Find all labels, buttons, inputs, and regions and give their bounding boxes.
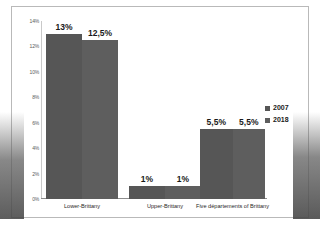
bar-value-label: 1%	[141, 175, 153, 184]
bar-value-label: 13%	[55, 23, 72, 32]
bar-value-label: 12,5%	[88, 29, 112, 38]
x-axis-category-label: Lower-Brittany	[64, 202, 100, 210]
legend-label: 2007	[273, 104, 289, 112]
bar-pair: 1%1%	[129, 21, 201, 199]
bar-value-label: 5,5%	[207, 118, 226, 127]
chart-legend: 20072018	[265, 102, 309, 126]
y-axis-tick-label: 12%	[13, 43, 39, 49]
x-axis-category-label: Upper-Brittany	[147, 202, 183, 210]
legend-item[interactable]: 2007	[265, 102, 309, 114]
page-margin-bottom	[0, 221, 320, 235]
legend-label: 2018	[273, 116, 289, 124]
bar-fill	[200, 129, 233, 199]
y-axis-tick-label: 14%	[13, 18, 39, 24]
chart-screenshot: 14%12%10%8%6%4%2%0% 13%12,5%1%1%5,5%5,5%…	[0, 0, 320, 235]
bar-group: 5,5%5,5%	[200, 21, 265, 199]
bar-fill	[82, 40, 118, 199]
bar-groups: 13%12,5%1%1%5,5%5,5%	[42, 21, 267, 199]
legend-swatch-icon	[265, 106, 270, 111]
y-axis-tick-label: 10%	[13, 69, 39, 75]
x-axis-labels: Lower-BrittanyUpper-BrittanyFive départe…	[42, 202, 267, 216]
bar-pair: 5,5%5,5%	[200, 21, 265, 199]
bar-fill	[129, 186, 165, 199]
y-axis-tick-label: 0%	[13, 196, 39, 202]
bar-fill	[46, 34, 82, 199]
y-axis-tick-label: 6%	[13, 120, 39, 126]
bar-group: 1%1%	[129, 21, 201, 199]
bar-fill	[233, 129, 266, 199]
bar-value-label: 5,5%	[239, 118, 258, 127]
bar-group: 13%12,5%	[46, 21, 118, 199]
bar-pair: 13%12,5%	[46, 21, 118, 199]
y-axis-labels: 14%12%10%8%6%4%2%0%	[11, 21, 39, 199]
bar-value-label: 1%	[177, 175, 189, 184]
bar-fill	[165, 186, 201, 199]
y-axis-tick-label: 4%	[13, 145, 39, 151]
legend-swatch-icon	[265, 118, 270, 123]
y-axis-tick-label: 2%	[13, 171, 39, 177]
y-axis-tick-label: 8%	[13, 94, 39, 100]
legend-item[interactable]: 2018	[265, 114, 309, 126]
x-axis-category-label: Five départements of Brittany	[196, 202, 269, 210]
